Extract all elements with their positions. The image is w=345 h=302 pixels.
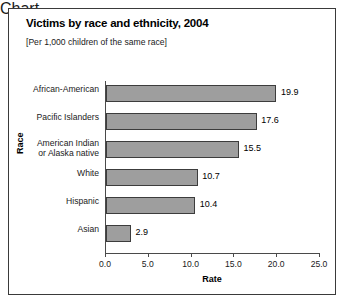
plot-area: African-American 19.9 Pacific Islanders … <box>105 81 319 253</box>
x-axis-tick <box>105 253 106 257</box>
x-axis-tick <box>319 253 320 257</box>
category-label: American Indian or Alaska native <box>3 139 99 158</box>
chart-title: Victims by race and ethnicity, 2004 <box>26 17 208 29</box>
x-axis-line <box>105 253 319 254</box>
category-label: African-American <box>3 85 99 95</box>
bar-value-label: 10.7 <box>202 171 220 181</box>
bar[interactable] <box>106 85 276 102</box>
x-axis-tick-label: 15.0 <box>225 259 242 269</box>
bar[interactable] <box>106 113 257 130</box>
chart-subtitle: [Per 1,000 children of the same race] <box>26 37 167 47</box>
x-axis-tick-label: 25.0 <box>311 259 328 269</box>
x-axis-title: Rate <box>105 274 319 284</box>
category-label: White <box>3 169 99 179</box>
chart-figure: Victims by race and ethnicity, 2004 [Per… <box>8 8 336 295</box>
bar-value-label: 17.6 <box>261 115 279 125</box>
bar-value-label: 10.4 <box>200 199 218 209</box>
category-label: Pacific Islanders <box>3 113 99 123</box>
category-label: Asian <box>3 225 99 235</box>
bar-value-label: 2.9 <box>136 227 149 237</box>
bar[interactable] <box>106 225 131 242</box>
bar[interactable] <box>106 197 195 214</box>
bar[interactable] <box>106 169 198 186</box>
x-axis-tick <box>148 253 149 257</box>
x-axis-tick-label: 10.0 <box>182 259 199 269</box>
x-axis-tick <box>233 253 234 257</box>
x-axis-tick <box>191 253 192 257</box>
x-axis-tick-label: 20.0 <box>268 259 285 269</box>
x-axis-tick <box>276 253 277 257</box>
bar[interactable] <box>106 141 239 158</box>
category-label: Hispanic <box>3 197 99 207</box>
bar-value-label: 19.9 <box>281 87 299 97</box>
bar-value-label: 15.5 <box>243 143 261 153</box>
x-axis-tick-label: 0.0 <box>99 259 111 269</box>
x-axis-tick-label: 5.0 <box>142 259 154 269</box>
